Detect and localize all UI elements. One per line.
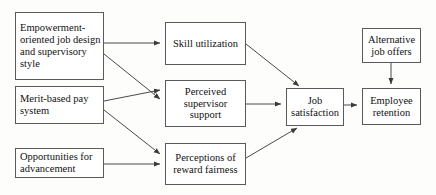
node-empowerment-oriented-job-design: Empowerment-oriented job design and supe… bbox=[15, 12, 104, 80]
edge-skill-to-satisfaction bbox=[246, 44, 299, 86]
node-label: Skill utilization bbox=[166, 38, 245, 50]
node-label: Job satisfaction bbox=[287, 95, 343, 119]
node-label: Merit-based pay system bbox=[16, 93, 103, 117]
node-alternative-job-offers: Alternative job offers bbox=[362, 28, 421, 63]
node-employee-retention: Employee retention bbox=[362, 88, 421, 125]
edge-empowerment-to-supervisor bbox=[104, 54, 160, 99]
node-label: Employee retention bbox=[363, 95, 420, 119]
node-label: Perceived supervisor support bbox=[166, 86, 245, 122]
node-skill-utilization: Skill utilization bbox=[165, 22, 246, 65]
edge-merit-to-supervisor bbox=[104, 90, 160, 101]
edge-fairness-to-satisfaction bbox=[246, 128, 297, 158]
process-diagram: Empowerment-oriented job design and supe… bbox=[0, 0, 436, 195]
node-label: Alternative job offers bbox=[363, 34, 420, 58]
node-job-satisfaction: Job satisfaction bbox=[286, 88, 344, 126]
node-perceived-supervisor-support: Perceived supervisor support bbox=[165, 80, 246, 127]
node-perceptions-of-reward-fairness: Perceptions of reward fairness bbox=[165, 143, 246, 185]
node-opportunities-for-advancement: Opportunities for advancement bbox=[15, 148, 104, 178]
node-label: Empowerment-oriented job design and supe… bbox=[16, 22, 103, 70]
edge-merit-to-fairness bbox=[104, 110, 160, 154]
node-merit-based-pay-system: Merit-based pay system bbox=[15, 86, 104, 124]
node-label: Perceptions of reward fairness bbox=[166, 152, 245, 176]
node-label: Opportunities for advancement bbox=[16, 151, 103, 175]
